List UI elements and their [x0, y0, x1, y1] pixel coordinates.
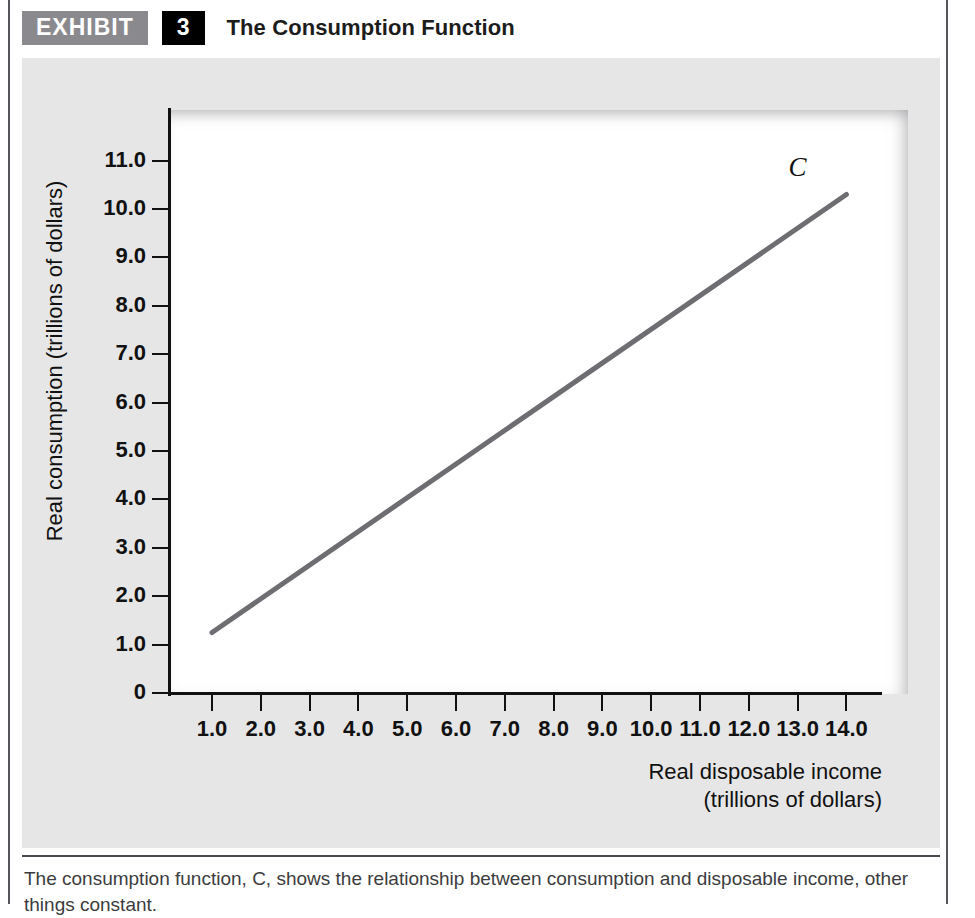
curve-line-C	[212, 194, 846, 632]
caption-line-1: The consumption function, C, shows the r…	[24, 868, 908, 889]
caption-divider	[22, 855, 940, 857]
caption-line-2: things constant.	[24, 894, 157, 915]
curve-label-c: C	[788, 152, 806, 183]
consumption-function-chart: 01.02.03.04.05.06.07.08.09.010.011.0 1.0…	[22, 58, 940, 848]
page-border-right	[946, 0, 948, 904]
exhibit-number-badge: 3	[162, 11, 205, 45]
exhibit-title: The Consumption Function	[227, 15, 515, 41]
exhibit-header: EXHIBIT 3 The Consumption Function	[22, 10, 515, 46]
exhibit-tag: EXHIBIT	[22, 11, 148, 45]
page-border-left	[8, 0, 10, 904]
figure-panel: 01.02.03.04.05.06.07.08.09.010.011.0 1.0…	[22, 58, 940, 848]
figure-caption: The consumption function, C, shows the r…	[24, 866, 936, 918]
